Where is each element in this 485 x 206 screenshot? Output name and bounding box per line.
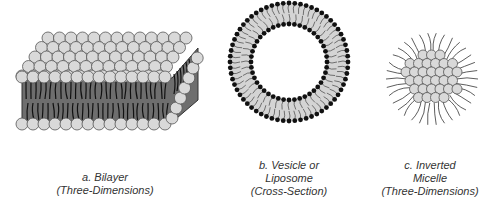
bilayer-caption-line-1: a. Bilayer (30, 171, 180, 184)
micelle-caption-line-2: Micelle (375, 172, 485, 185)
micelle-caption-line-3: (Three-Dimensions) (375, 185, 485, 198)
vesicle-caption-line-3: (Cross-Section) (236, 185, 342, 198)
micelle-caption: c. Inverted Micelle (Three-Dimensions) (375, 159, 485, 198)
bilayer-illustration (16, 32, 203, 130)
bilayer-caption: a. Bilayer (Three-Dimensions) (30, 171, 180, 197)
inverted-micelle-illustration (386, 33, 478, 125)
vesicle-caption: b. Vesicle or Liposome (Cross-Section) (236, 159, 342, 198)
micelle-caption-line-1: c. Inverted (375, 159, 485, 172)
vesicle-caption-line-1: b. Vesicle or (236, 159, 342, 172)
vesicle-illustration (228, 1, 351, 124)
vesicle-caption-line-2: Liposome (236, 172, 342, 185)
bilayer-caption-line-2: (Three-Dimensions) (30, 184, 180, 197)
